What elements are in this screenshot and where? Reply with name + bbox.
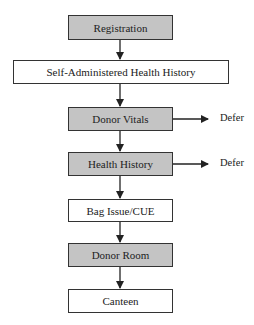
- step-bag-issue-cue: Bag Issue/CUE: [68, 199, 173, 222]
- step-registration: Registration: [68, 15, 173, 40]
- step-donor-vitals: Donor Vitals: [68, 107, 173, 131]
- defer-label-vitals: Defer: [220, 112, 244, 123]
- step-label: Donor Vitals: [92, 113, 148, 125]
- step-donor-room: Donor Room: [68, 243, 173, 267]
- step-label: Donor Room: [92, 249, 150, 261]
- step-label: Registration: [94, 22, 148, 34]
- step-label: Health History: [88, 158, 153, 170]
- step-label: Canteen: [102, 295, 138, 307]
- step-canteen: Canteen: [68, 289, 173, 313]
- defer-label-health-history: Defer: [220, 157, 244, 168]
- step-label: Self-Administered Health History: [46, 66, 195, 78]
- step-label: Bag Issue/CUE: [86, 205, 154, 217]
- step-health-history: Health History: [68, 152, 173, 176]
- step-self-administered-health-history: Self-Administered Health History: [13, 60, 229, 84]
